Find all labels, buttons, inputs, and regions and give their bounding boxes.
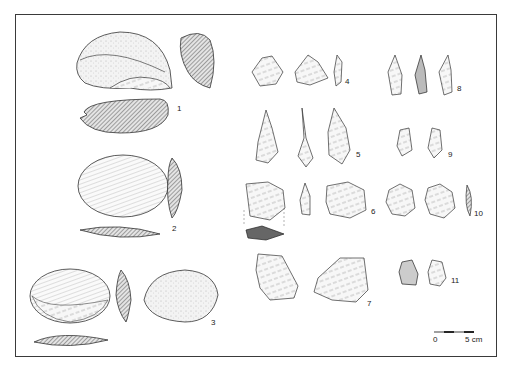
figure-label-3: 3 xyxy=(211,319,215,327)
artifact-9 xyxy=(397,128,442,158)
figure-label-4: 4 xyxy=(345,78,349,86)
artifact-7 xyxy=(256,254,368,302)
artifact-4 xyxy=(252,55,342,86)
figure-label-2: 2 xyxy=(172,225,176,233)
artifact-1 xyxy=(77,32,214,133)
figure-label-7: 7 xyxy=(367,300,371,308)
scale-end-label: 5 cm xyxy=(465,336,482,344)
figure-label-11: 11 xyxy=(451,277,459,285)
figure-label-5: 5 xyxy=(356,151,360,159)
artifact-2 xyxy=(78,155,182,237)
artifact-6 xyxy=(244,182,366,240)
scale-start-label: 0 xyxy=(433,336,437,344)
scale-bar xyxy=(434,331,474,333)
artifact-8 xyxy=(388,55,452,95)
artifact-11 xyxy=(399,260,446,286)
artifact-10 xyxy=(386,184,471,218)
artifact-drawings xyxy=(0,0,511,372)
figure-label-1: 1 xyxy=(177,105,181,113)
artifact-3 xyxy=(30,269,218,346)
figure-label-6: 6 xyxy=(371,208,375,216)
figure-label-10: 10 xyxy=(474,210,483,218)
figure-label-9: 9 xyxy=(448,151,452,159)
figure-label-8: 8 xyxy=(457,85,461,93)
artifact-5 xyxy=(256,108,350,167)
